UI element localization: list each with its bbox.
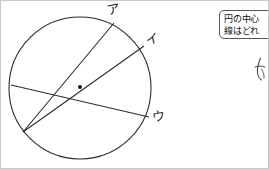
label-i: イ [145,32,161,48]
center-point-dot [78,85,82,89]
screenshot-canvas: ア イ ウ 円の中心 線はどれ [0,0,269,169]
callout-line-1: 円の中心 [224,13,269,25]
label-a: ア [106,2,121,17]
circle-diagram [1,1,181,169]
chord-to-u-line [11,85,149,117]
label-u: ウ [151,109,166,124]
callout-line-2: 線はどれ [224,25,269,37]
handwritten-ink-mark [251,56,269,82]
question-callout: 円の中心 線はどれ [219,10,269,39]
